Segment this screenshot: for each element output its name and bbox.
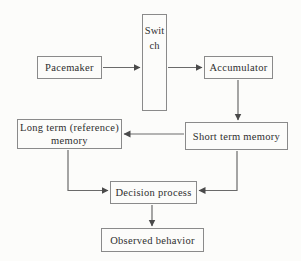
node-short-term-memory: Short term memory <box>185 122 288 150</box>
node-accumulator: Accumulator <box>204 56 273 79</box>
arrow-long-term-to-decision <box>68 150 108 191</box>
node-pacemaker: Pacemaker <box>37 56 102 79</box>
node-long-term-memory: Long term (reference) memory <box>17 119 122 149</box>
node-switch: Switch <box>142 14 167 111</box>
node-observed-behavior: Observed behavior <box>101 228 204 252</box>
node-decision-process: Decision process <box>110 181 197 204</box>
flowchart-diagram: Pacemaker Switch Accumulator Long term (… <box>0 0 301 261</box>
arrow-short-term-to-decision <box>199 151 237 191</box>
